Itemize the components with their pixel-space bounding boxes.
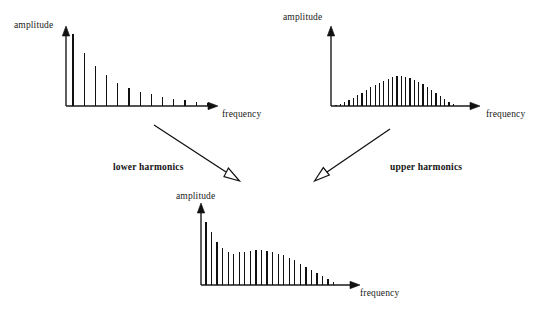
arrow-lower-head-icon <box>224 168 240 181</box>
y-axis-label-lower: amplitude <box>14 20 53 30</box>
arrow-lower-to-combined <box>154 125 240 181</box>
arrow-upper-to-combined <box>315 129 391 181</box>
diagram-canvas: amplitude frequency amplitude frequency … <box>0 0 552 314</box>
bars-lower-harmonics <box>73 34 207 106</box>
y-axis-arrowhead-combined <box>197 203 204 213</box>
bars-combined <box>206 222 334 285</box>
x-axis-arrowhead-upper <box>470 102 480 109</box>
y-axis-arrowhead-lower <box>62 26 69 36</box>
bars-upper-harmonics <box>336 76 453 106</box>
label-upper-harmonics: upper harmonics <box>390 162 462 172</box>
label-lower-harmonics: lower harmonics <box>113 162 184 172</box>
x-axis-label-lower: frequency <box>222 109 261 119</box>
arrow-upper-head-icon <box>315 168 330 181</box>
chart-upper-harmonics: amplitude frequency <box>283 12 525 119</box>
x-axis-label-combined: frequency <box>360 288 399 298</box>
x-axis-arrowhead-lower <box>208 102 218 109</box>
arrow-upper-shaft <box>327 129 390 172</box>
y-axis-label-upper: amplitude <box>283 12 322 22</box>
x-axis-label-upper: frequency <box>486 109 525 119</box>
chart-lower-harmonics: amplitude frequency <box>14 20 261 119</box>
harmonics-diagram: amplitude frequency amplitude frequency … <box>0 0 552 314</box>
x-axis-arrowhead-combined <box>350 281 360 288</box>
chart-combined: amplitude frequency <box>176 191 399 298</box>
y-axis-label-combined: amplitude <box>176 191 215 201</box>
y-axis-arrowhead-upper <box>327 26 334 36</box>
